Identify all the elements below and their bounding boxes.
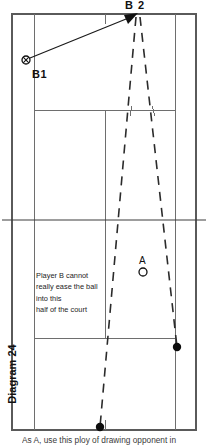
movement-arrow-shaft: [30, 17, 131, 58]
player-a-marker: [139, 268, 147, 276]
annotation-line-4: half of the court: [36, 304, 114, 315]
court-diagram-svg: [0, 0, 208, 446]
diagram-page: B 2 B1 A Player B cannot really ease the…: [0, 0, 208, 446]
annotation-line-1: Player B cannot: [36, 270, 114, 281]
annotation-text: Player B cannot really ease the ball int…: [36, 270, 114, 315]
player-b1-label: B1: [32, 69, 47, 80]
ball-mark-right: [173, 343, 181, 351]
ball-mark-bottom: [96, 423, 104, 431]
trajectory-tick-top-left: [130, 106, 132, 116]
diagram-caption: As A, use this ploy of drawing opponent …: [22, 436, 208, 446]
trajectory-right-dashed: [140, 17, 177, 347]
trajectory-tick-top-right: [152, 106, 155, 116]
player-b2-label: B 2: [125, 0, 145, 11]
player-a-label: A: [139, 256, 146, 266]
annotation-line-3: into this: [36, 293, 114, 304]
diagram-number-label: Diagram 24: [6, 336, 18, 412]
annotation-line-2: really ease the ball: [36, 281, 114, 292]
